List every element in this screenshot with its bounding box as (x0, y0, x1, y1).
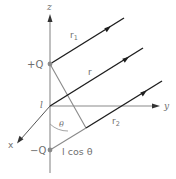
ray-r1: r1 (50, 18, 124, 64)
l-cos-theta-label: l cos θ (62, 146, 93, 157)
ray-r1-label: r1 (70, 30, 78, 42)
dipole-diagram: z y x θ r1 r r2 +Q −Q l l cos θ (0, 0, 176, 179)
y-axis-label: y (163, 101, 170, 111)
x-axis: x (8, 106, 50, 150)
ray-r2-label: r2 (112, 116, 120, 128)
ray-r: r (50, 48, 143, 106)
ray-r2-arrow-icon (140, 90, 147, 96)
negative-charge-label: −Q (30, 145, 46, 156)
ray-r2: r2 (86, 81, 162, 128)
positive-charge-dot (48, 62, 53, 67)
negative-charge-dot (48, 148, 53, 153)
dipole-projection-line (50, 64, 86, 128)
ray-r-label: r (88, 67, 92, 77)
y-axis: y (50, 101, 170, 111)
y-axis-arrow-icon (152, 104, 160, 109)
ray-r-arrow-icon (122, 57, 129, 63)
z-axis-label: z (46, 2, 52, 12)
x-axis-label: x (8, 140, 14, 150)
positive-charge-label: +Q (27, 59, 43, 70)
ray-r1-arrow-icon (104, 26, 111, 32)
theta-label: θ (59, 120, 64, 129)
z-axis: z (46, 2, 53, 173)
z-axis-arrow-icon (48, 14, 53, 22)
origin-label: l (40, 100, 43, 110)
